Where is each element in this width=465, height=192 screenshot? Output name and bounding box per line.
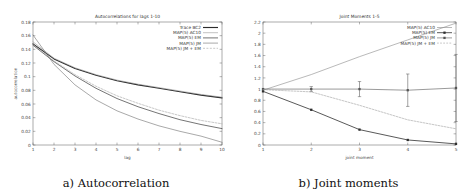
y-tick-label: 2.2	[254, 20, 261, 25]
series-line	[263, 91, 456, 144]
x-tick-label: 6	[137, 147, 140, 152]
y-tick-label: 0.8	[254, 98, 261, 103]
data-point-marker	[262, 90, 264, 92]
y-tick-label: 0.4	[254, 120, 261, 125]
data-point-marker	[455, 87, 457, 89]
x-axis-label: lag	[124, 155, 131, 160]
y-axis-label: autocorrelation	[13, 67, 18, 99]
x-tick-label: 4	[95, 147, 98, 152]
panel-autocorrelation: Autocorrelations for lags 1-1000.020.040…	[0, 0, 232, 166]
y-tick-label: 0.6	[254, 109, 261, 114]
x-tick-label: 1	[262, 147, 265, 152]
series-line	[33, 45, 222, 128]
x-tick-label: 7	[158, 147, 161, 152]
y-tick-label: 1.8	[254, 42, 261, 47]
y-tick-label: 0.02	[21, 129, 31, 134]
y-tick-label: 0.14	[21, 47, 31, 52]
caption-autocorrelation: a) Autocorrelation	[0, 176, 232, 190]
data-point-marker	[407, 89, 409, 91]
data-point-marker	[310, 109, 312, 111]
x-tick-label: 2	[310, 147, 313, 152]
series-line	[33, 45, 222, 124]
legend-marker	[443, 32, 445, 34]
y-tick-label: 0.18	[21, 20, 31, 25]
x-tick-label: 5	[455, 147, 458, 152]
y-tick-label: 0	[258, 143, 261, 148]
x-tick-label: 9	[200, 147, 203, 152]
y-tick-label: 0.16	[21, 33, 31, 38]
data-point-marker	[358, 88, 360, 90]
x-tick-label: 1	[32, 147, 35, 152]
figure-autocorrelation-joint-moments: Autocorrelations for lags 1-1000.020.040…	[0, 0, 465, 192]
y-tick-label: 1.4	[254, 64, 261, 69]
x-tick-label: 3	[74, 147, 77, 152]
chart-title: Joint Moments 1-5	[339, 14, 380, 19]
y-tick-label: 1	[258, 87, 261, 92]
y-tick-label: 0.04	[21, 115, 31, 120]
legend-marker	[443, 37, 445, 39]
y-tick-label: 0.12	[21, 61, 31, 66]
y-tick-label: 0.08	[21, 88, 31, 93]
data-point-marker	[455, 143, 457, 145]
series-line	[33, 44, 222, 98]
y-tick-label: 0.1	[24, 74, 31, 79]
x-axis-label: joint moment	[344, 155, 373, 160]
caption-joint-moments: b) Joint moments	[232, 176, 465, 190]
y-tick-label: 1.6	[254, 53, 261, 58]
series-line	[33, 35, 222, 142]
data-point-marker	[310, 88, 312, 90]
x-tick-label: 2	[53, 147, 56, 152]
y-tick-label: 0.2	[254, 131, 261, 136]
y-tick-label: 0.06	[21, 102, 31, 107]
autocorrelation-plot: Autocorrelations for lags 1-1000.020.040…	[0, 0, 232, 166]
y-tick-label: 0	[28, 143, 31, 148]
legend-label: MAP(5) JM + EM	[167, 46, 202, 51]
x-tick-label: 8	[179, 147, 182, 152]
y-tick-label: 1.2	[254, 76, 261, 81]
data-point-marker	[407, 139, 409, 141]
panel-joint-moments: Joint Moments 1-500.20.40.60.811.21.41.6…	[232, 0, 465, 166]
y-tick-label: 2	[258, 31, 261, 36]
x-tick-label: 5	[116, 147, 119, 152]
x-tick-label: 10	[219, 147, 225, 152]
chart-title: Autocorrelations for lags 1-10	[95, 14, 160, 19]
x-tick-label: 4	[406, 147, 409, 152]
data-point-marker	[358, 128, 360, 130]
legend-label: MAP(5) JM + EM	[401, 41, 436, 46]
x-tick-label: 3	[358, 147, 361, 152]
joint-moments-plot: Joint Moments 1-500.20.40.60.811.21.41.6…	[232, 0, 465, 166]
